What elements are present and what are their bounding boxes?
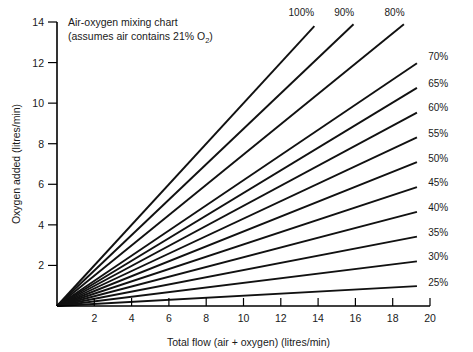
x-tick-label: 4 <box>129 312 135 324</box>
y-axis-ticks <box>48 22 57 265</box>
series-label-90: 90% <box>334 7 354 18</box>
series-line-80 <box>57 24 404 306</box>
y-tick-label: 8 <box>38 138 44 150</box>
y-tick-label: 10 <box>32 97 44 109</box>
series-label-35: 35% <box>428 227 448 238</box>
x-tick-label: 16 <box>350 312 362 324</box>
axes-group <box>48 22 430 306</box>
x-tick-label: 12 <box>275 312 287 324</box>
x-tick-label: 2 <box>91 312 97 324</box>
series-lines-group <box>57 24 417 306</box>
y-tick-label: 4 <box>38 219 44 231</box>
x-tick-label: 10 <box>238 312 250 324</box>
chart-title-line2-pre: (assumes air contains 21% O <box>68 30 205 42</box>
series-line-90 <box>57 24 354 306</box>
x-tick-label: 18 <box>387 312 399 324</box>
chart-title-line1: Air-oxygen mixing chart <box>68 16 178 28</box>
y-tick-label: 2 <box>38 259 44 271</box>
series-label-25: 25% <box>428 277 448 288</box>
chart-title-line2: (assumes air contains 21% O2) <box>68 30 213 45</box>
series-label-65: 65% <box>428 78 448 89</box>
y-axis-title: Oxygen added (litres/min) <box>10 104 22 224</box>
series-line-40 <box>57 212 417 306</box>
series-label-30: 30% <box>428 251 448 262</box>
chart-title-line2-post: ) <box>209 30 213 42</box>
series-label-60: 60% <box>428 102 448 113</box>
series-line-65 <box>57 88 417 306</box>
x-axis-tick-labels: 2468101214161820 <box>91 312 436 324</box>
series-label-80: 80% <box>385 7 405 18</box>
series-label-100: 100% <box>289 7 315 18</box>
y-tick-label: 14 <box>32 16 44 28</box>
x-axis-title: Total flow (air + oxygen) (litres/min) <box>167 336 330 348</box>
series-label-40: 40% <box>428 202 448 213</box>
x-tick-label: 14 <box>312 312 324 324</box>
x-tick-label: 8 <box>203 312 209 324</box>
x-tick-label: 20 <box>424 312 436 324</box>
air-oxygen-mixing-chart: 2468101214161820 2468101214 100%90%80%70… <box>0 0 473 352</box>
series-label-70: 70% <box>428 51 448 62</box>
y-axis-tick-labels: 2468101214 <box>32 16 44 271</box>
x-tick-label: 6 <box>166 312 172 324</box>
series-label-55: 55% <box>428 128 448 139</box>
series-line-55 <box>57 137 417 306</box>
series-label-45: 45% <box>428 177 448 188</box>
series-label-50: 50% <box>428 153 448 164</box>
y-tick-label: 12 <box>32 57 44 69</box>
y-tick-label: 6 <box>38 178 44 190</box>
series-line-60 <box>57 113 417 306</box>
chart-container: 2468101214161820 2468101214 100%90%80%70… <box>0 0 473 352</box>
